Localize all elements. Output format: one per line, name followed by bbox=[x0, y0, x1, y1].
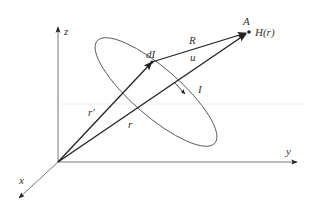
R-vector bbox=[152, 33, 246, 62]
r-prime-vector bbox=[58, 62, 152, 162]
dI-label: dI bbox=[146, 48, 157, 60]
x-axis bbox=[19, 162, 58, 198]
point-A-label: A bbox=[242, 15, 250, 27]
R-label: R bbox=[188, 34, 196, 46]
current-loop bbox=[81, 23, 230, 162]
field-point-A bbox=[247, 30, 251, 34]
r-prime-label: r′ bbox=[88, 106, 95, 118]
y-axis-label: y bbox=[285, 145, 291, 157]
current-element-point bbox=[150, 60, 153, 63]
field-H-label: H(r) bbox=[254, 26, 275, 39]
x-axis-label: x bbox=[18, 174, 24, 186]
axes bbox=[19, 27, 297, 198]
r-label: r bbox=[128, 118, 133, 130]
z-axis-label: z bbox=[63, 25, 69, 37]
u-label: u bbox=[190, 51, 196, 63]
current-I-label: I bbox=[197, 83, 203, 95]
biot-savart-diagram: z y x A H(r) dI R u r′ r I bbox=[0, 0, 313, 208]
